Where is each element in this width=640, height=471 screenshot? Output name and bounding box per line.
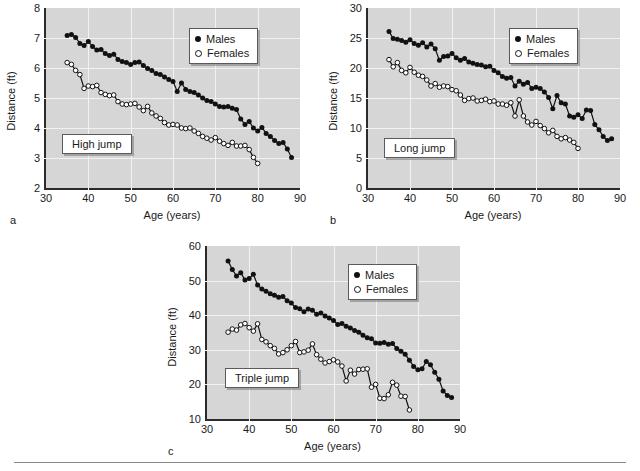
legend-label-males: Males [365, 268, 394, 282]
x-tick-label: 40 [404, 193, 416, 204]
data-point [555, 93, 560, 98]
data-point [230, 106, 235, 111]
data-point [352, 372, 357, 377]
data-point [166, 77, 171, 82]
data-point [154, 71, 159, 76]
data-point [314, 312, 319, 317]
y-tick-label: 60 [189, 241, 201, 252]
legend-label-males: Males [526, 32, 555, 46]
data-point [69, 32, 74, 37]
x-tick-label: 40 [82, 193, 94, 204]
data-point [390, 341, 395, 346]
panel-c-x-axis-label: Age (years) [205, 440, 460, 452]
data-point [200, 96, 205, 101]
legend-label-females: Females [207, 46, 249, 60]
panel-a-y-axis-label: Distance (ft) [5, 66, 17, 136]
data-point [420, 40, 425, 45]
data-point [361, 333, 366, 338]
data-point [251, 329, 256, 334]
data-point [391, 36, 396, 41]
x-tick-label: 40 [243, 424, 255, 435]
data-point [424, 359, 429, 364]
panel-b-x-axis [366, 188, 620, 190]
data-point [247, 119, 252, 124]
data-point [247, 325, 252, 330]
panel-b-plot-area: 05101520253030405060708090 Males Females… [366, 8, 620, 190]
y-tick-label: 20 [189, 379, 201, 390]
x-tick-label: 30 [201, 424, 213, 435]
data-point [175, 123, 180, 128]
data-point [230, 140, 235, 145]
legend-row-males: Males [195, 32, 249, 46]
panel-a-plot-area: 234567830405060708090 Males Females High… [44, 8, 300, 190]
data-point [509, 101, 514, 106]
panel-c: Distance (ft) 10203040506030405060708090… [160, 238, 490, 463]
data-point [415, 367, 420, 372]
panel-b-title-tag: Long jump [384, 138, 455, 158]
data-point [356, 330, 361, 335]
panel-c-x-axis [205, 419, 460, 421]
y-tick-label: 10 [350, 123, 362, 134]
data-point [196, 131, 201, 136]
data-point [420, 366, 425, 371]
y-tick-label: 50 [189, 275, 201, 286]
data-point [107, 53, 112, 58]
data-point [454, 55, 459, 60]
panel-a-series-svg [46, 8, 300, 188]
data-point [369, 385, 374, 390]
data-point [310, 342, 315, 347]
data-point [534, 119, 539, 124]
data-point [289, 343, 294, 348]
x-tick-label: 90 [294, 193, 306, 204]
data-point [158, 72, 163, 77]
data-point [272, 138, 277, 143]
legend-row-females: Females [195, 46, 249, 60]
data-point [450, 51, 455, 56]
x-tick-label: 80 [572, 193, 584, 204]
data-point [382, 396, 387, 401]
data-point [331, 318, 336, 323]
y-tick-label: 20 [350, 63, 362, 74]
data-point [394, 346, 399, 351]
data-point [584, 108, 589, 113]
data-point [387, 57, 392, 62]
data-point [99, 47, 104, 52]
figure-root: Distance (ft) 234567830405060708090 Male… [0, 0, 640, 471]
x-tick-label: 70 [530, 193, 542, 204]
data-point [492, 68, 497, 73]
data-point [441, 388, 446, 393]
y-tick-label: 10 [189, 414, 201, 425]
legend-row-females: Females [515, 46, 569, 60]
panel-a-title-tag: High jump [62, 134, 132, 154]
data-point [204, 98, 209, 103]
data-point [192, 90, 197, 95]
panel-b-y-axis-label: Distance (ft) [327, 66, 339, 136]
data-point [492, 99, 497, 104]
data-point [335, 322, 340, 327]
data-point [504, 76, 509, 81]
x-tick-label: 70 [209, 193, 221, 204]
data-point [403, 40, 408, 45]
data-point [525, 120, 530, 125]
data-point [230, 267, 235, 272]
data-point [111, 52, 116, 57]
panel-c-title-tag: Triple jump [225, 368, 299, 388]
data-point [559, 100, 564, 105]
panel-c-legend: Males Females [348, 264, 417, 300]
legend-label-females: Females [527, 46, 569, 60]
panel-b-series-svg [368, 8, 620, 188]
data-point [188, 126, 193, 131]
data-point [137, 60, 142, 65]
data-point [234, 274, 239, 279]
data-point [226, 143, 231, 148]
data-point [162, 75, 167, 80]
data-point [255, 161, 260, 166]
data-point [217, 104, 222, 109]
x-tick-label: 30 [40, 193, 52, 204]
data-point [441, 54, 446, 59]
data-point [145, 104, 150, 109]
data-point [289, 155, 294, 160]
data-point [77, 41, 82, 46]
data-point [289, 301, 294, 306]
panel-letter-a: a [10, 214, 16, 226]
